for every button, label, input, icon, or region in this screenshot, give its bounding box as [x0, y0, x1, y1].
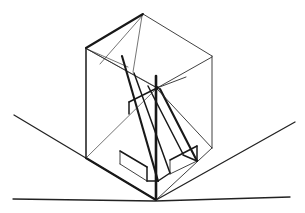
center-node-dot	[155, 86, 159, 90]
center-convergence-point	[155, 86, 159, 90]
slab-far-edge	[148, 86, 183, 154]
notch-left-base	[120, 164, 147, 181]
top-edge-apex-to-right	[143, 14, 212, 56]
slab-right-edge	[160, 89, 197, 161]
top-face-outline	[86, 14, 212, 56]
top-edge-back-left	[87, 49, 157, 88]
top-face-construction-lines	[87, 15, 212, 88]
mid-right-tick	[157, 77, 186, 88]
vertical-edges	[86, 48, 212, 199]
notch-right-base	[170, 161, 197, 174]
top-edge-apex-to-left	[86, 14, 143, 48]
slab-foot-front	[158, 173, 170, 181]
top-edge-right-back	[157, 57, 212, 88]
lower-silhouette	[86, 148, 212, 200]
ground-right-receding-line	[156, 122, 295, 200]
node-to-left-base	[86, 90, 155, 158]
drawing-canvas	[0, 0, 305, 213]
bottom-notch-group	[120, 146, 197, 181]
perspective-line-drawing	[0, 0, 305, 213]
notch-left-step-top	[120, 151, 147, 167]
